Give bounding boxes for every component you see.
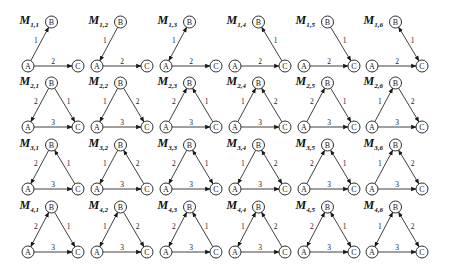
svg-text:C: C: [351, 185, 356, 194]
edge-label: 2: [310, 222, 314, 231]
node-A: A: [229, 121, 241, 133]
motif-2-6: M2,6123ABC: [363, 74, 429, 133]
svg-text:B: B: [256, 203, 261, 212]
edge-label: 3: [327, 180, 331, 189]
edge-CB: [331, 212, 351, 247]
motif-label: M2,2: [88, 74, 109, 90]
svg-text:B: B: [118, 203, 123, 212]
edge-label: 1: [205, 159, 209, 168]
motif-label: M1,3: [157, 13, 178, 29]
edge-label: 3: [189, 118, 193, 127]
motif-2-4: M2,4123ABC: [226, 74, 292, 133]
svg-text:C: C: [419, 248, 424, 257]
motif-3-2: M3,2123ABC: [88, 136, 154, 195]
node-B: B: [184, 16, 196, 28]
edge-label: 2: [172, 97, 176, 106]
svg-text:B: B: [325, 141, 330, 150]
node-C: C: [141, 183, 153, 195]
edge-label: 1: [67, 97, 71, 106]
node-B: B: [322, 139, 334, 151]
edge-label: 1: [241, 222, 245, 231]
node-C: C: [72, 183, 84, 195]
edge-label: 2: [274, 159, 278, 168]
svg-text:C: C: [213, 62, 218, 71]
edge-label: 2: [327, 57, 331, 66]
edge-label: 1: [205, 97, 209, 106]
svg-text:B: B: [393, 141, 398, 150]
edge-CB: [399, 27, 419, 61]
node-A: A: [366, 246, 378, 258]
edge-label: 1: [343, 159, 347, 168]
edge-label: 1: [67, 222, 71, 231]
motif-label: M3,6: [363, 136, 384, 152]
svg-text:C: C: [351, 248, 356, 257]
svg-text:B: B: [393, 203, 398, 212]
motif-label: M4,1: [19, 198, 39, 214]
svg-text:B: B: [256, 79, 261, 88]
edge-CB: [124, 212, 144, 247]
edge-CB: [399, 88, 419, 122]
edge-label: 2: [172, 222, 176, 231]
svg-text:A: A: [301, 62, 307, 71]
svg-text:B: B: [49, 79, 54, 88]
svg-text:B: B: [187, 18, 192, 27]
node-A: A: [366, 183, 378, 195]
edge-label: 2: [411, 159, 415, 168]
motif-grid: M1,112ABCM1,212ABCM1,312ABCM1,412ABCM1,5…: [0, 0, 450, 273]
node-A: A: [160, 60, 172, 72]
motif-1-1: M1,112ABC: [19, 13, 85, 72]
node-A: A: [91, 246, 103, 258]
node-C: C: [279, 183, 291, 195]
edge-label: 2: [411, 222, 415, 231]
edge-label: 3: [120, 118, 124, 127]
svg-text:A: A: [369, 123, 375, 132]
edge-label: 1: [67, 159, 71, 168]
svg-text:B: B: [118, 79, 123, 88]
motif-1-3: M1,312ABC: [157, 13, 223, 72]
node-A: A: [160, 183, 172, 195]
svg-text:B: B: [325, 79, 330, 88]
node-A: A: [298, 121, 310, 133]
edge-label: 1: [103, 36, 107, 45]
edge-label: 1: [241, 97, 245, 106]
edge-CB: [193, 150, 213, 184]
motif-3-3: M3,3213ABC: [157, 136, 223, 195]
edge-CB: [331, 88, 351, 122]
node-A: A: [22, 121, 34, 133]
node-A: A: [160, 121, 172, 133]
svg-text:C: C: [282, 185, 287, 194]
svg-text:A: A: [369, 62, 375, 71]
motif-4-5: M4,5213ABC: [295, 198, 361, 258]
edge-CB: [55, 88, 75, 122]
svg-text:A: A: [25, 62, 31, 71]
svg-text:B: B: [256, 18, 261, 27]
edge-label: 2: [274, 222, 278, 231]
edge-label: 3: [258, 118, 262, 127]
node-C: C: [279, 246, 291, 258]
svg-text:A: A: [232, 123, 238, 132]
edge-label: 3: [120, 180, 124, 189]
svg-text:A: A: [25, 123, 31, 132]
svg-text:C: C: [144, 123, 149, 132]
node-B: B: [184, 201, 196, 213]
edge-label: 2: [120, 57, 124, 66]
svg-text:C: C: [419, 123, 424, 132]
node-A: A: [22, 246, 34, 258]
node-B: B: [322, 16, 334, 28]
motif-label: M4,4: [226, 198, 247, 214]
svg-text:C: C: [213, 185, 218, 194]
node-C: C: [210, 121, 222, 133]
node-A: A: [229, 246, 241, 258]
node-A: A: [91, 121, 103, 133]
node-B: B: [184, 139, 196, 151]
svg-text:B: B: [187, 141, 192, 150]
edge-CB: [55, 150, 75, 184]
edge-label: 2: [34, 159, 38, 168]
motif-label: M2,1: [19, 74, 39, 90]
edge-label: 3: [258, 243, 262, 252]
node-B: B: [253, 201, 265, 213]
motif-label: M1,1: [19, 13, 39, 29]
motif-label: M3,5: [295, 136, 316, 152]
edge-label: 2: [136, 97, 140, 106]
node-B: B: [115, 77, 127, 89]
